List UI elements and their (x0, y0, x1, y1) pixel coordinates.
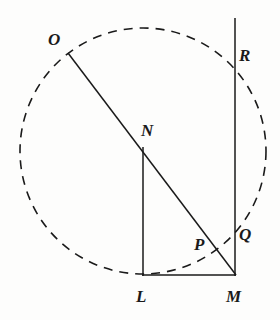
point-label-N: N (141, 122, 153, 139)
segment-OM (68, 53, 236, 275)
point-label-P: P (194, 236, 205, 253)
point-label-Q: Q (239, 226, 251, 243)
point-label-L: L (136, 288, 147, 305)
geometry-figure: O R N P Q L M (0, 0, 280, 320)
point-label-M: M (226, 288, 241, 305)
point-label-O: O (48, 31, 60, 48)
point-label-R: R (239, 47, 251, 64)
geometry-canvas (0, 0, 280, 320)
